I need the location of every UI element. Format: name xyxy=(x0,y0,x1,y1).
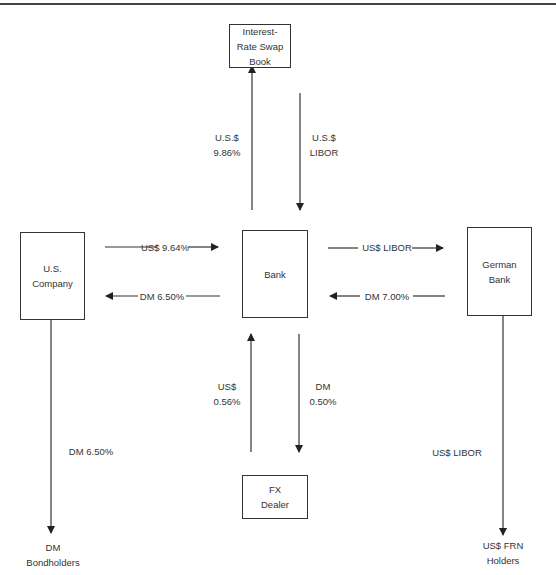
node-dm-bondholders: DM Bondholders xyxy=(18,540,88,570)
node-label: Interest- Rate Swap Book xyxy=(237,24,283,69)
node-label: Bank xyxy=(264,267,286,282)
node-bank: Bank xyxy=(242,230,308,318)
flow-label-bank-to-fx: DM 0.50% xyxy=(308,379,338,409)
flow-label-bank-to-uscompany: DM 6.50% xyxy=(138,289,186,304)
node-label: FX Dealer xyxy=(261,482,289,512)
flow-label-fx-to-bank: US$ 0.56% xyxy=(212,379,242,409)
flow-label-swap-to-bank: U.S.$ LIBOR xyxy=(308,130,340,160)
node-swap-book: Interest- Rate Swap Book xyxy=(229,24,291,68)
node-frn-holders: US$ FRN Holders xyxy=(478,538,528,568)
flow-label-uscompany-to-bank: US$ 9.64% xyxy=(140,240,190,255)
flow-label-german-to-bank: DM 7.00% xyxy=(362,289,412,304)
node-label: German Bank xyxy=(482,257,516,287)
node-german-bank: German Bank xyxy=(467,227,532,316)
node-label: U.S. Company xyxy=(32,261,73,291)
flow-label-uscompany-to-bondholders: DM 6.50% xyxy=(66,444,116,459)
flow-label-bank-to-swap: U.S.$ 9.86% xyxy=(212,130,242,160)
flow-label-bank-to-german: US$ LIBOR xyxy=(362,240,412,255)
node-us-company: U.S. Company xyxy=(20,232,85,320)
flow-label-german-to-frn: US$ LIBOR xyxy=(432,445,482,460)
node-fx-dealer: FX Dealer xyxy=(242,475,308,519)
